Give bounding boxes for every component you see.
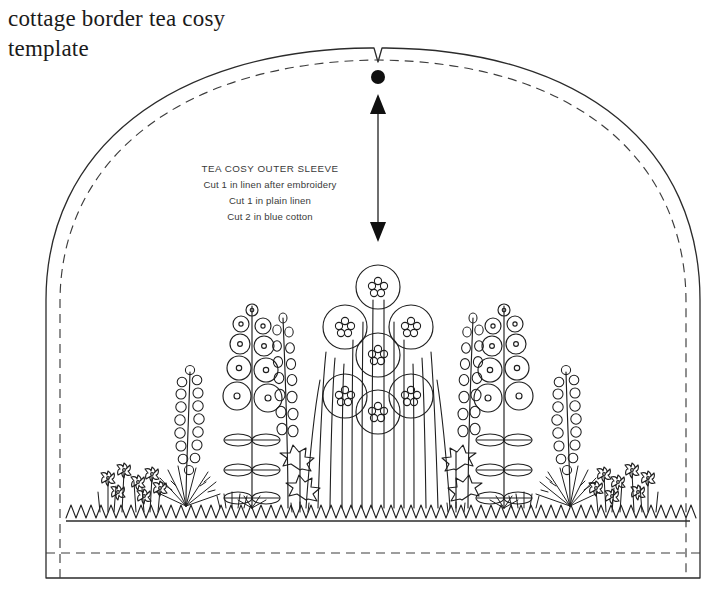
pattern-label-line-1: Cut 1 in linen after embroidery (203, 179, 336, 190)
plant-star-cluster-right (589, 463, 658, 512)
center-dot-marking (371, 70, 385, 84)
grain-line-arrow (370, 94, 386, 242)
plant-ivy-left (280, 445, 320, 508)
allium-head-right-upper (389, 305, 433, 349)
template-canvas: cottage border tea cosytemplate TEA COS (0, 0, 728, 595)
foliage-feather-right (536, 466, 600, 506)
plant-allium-cluster (306, 265, 450, 508)
allium-head-right-lower (389, 374, 433, 418)
grass-tufts (217, 492, 539, 512)
plant-hollyhock-right (474, 304, 533, 508)
cottage-border-artwork (66, 265, 696, 518)
pattern-label-line-0: TEA COSY OUTER SLEEVE (201, 163, 338, 174)
foliage-feather-left (156, 466, 220, 506)
grass-zigzag (66, 505, 696, 518)
plant-star-cluster-left (98, 463, 167, 512)
tea-cosy-pattern-drawing: TEA COSY OUTER SLEEVE Cut 1 in linen aft… (0, 0, 728, 595)
pattern-label-block: TEA COSY OUTER SLEEVE Cut 1 in linen aft… (201, 163, 338, 222)
allium-head-left-upper (323, 305, 367, 349)
pattern-label-line-3: Cut 2 in blue cotton (227, 211, 313, 222)
allium-head-left-lower (323, 374, 367, 418)
plant-lavender-left (273, 313, 298, 508)
pattern-label-line-2: Cut 1 in plain linen (229, 195, 311, 206)
plant-hollyhock-left (223, 304, 282, 508)
plant-lupine-left (156, 365, 220, 506)
allium-head-top (356, 265, 400, 309)
